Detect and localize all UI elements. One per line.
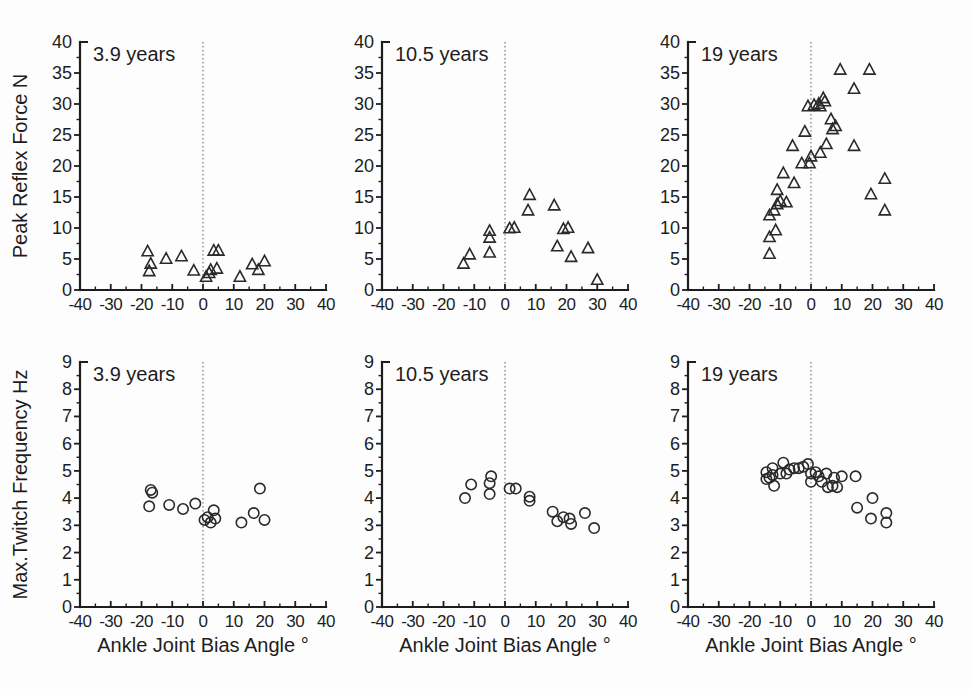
y-tick-label: 9	[670, 352, 680, 372]
y-tick-label: 35	[52, 63, 72, 83]
x-tick-label: 10	[527, 295, 545, 314]
x-tick-label: -40	[676, 612, 699, 631]
x-tick-label: 40	[317, 295, 335, 314]
data-point-circle	[486, 471, 496, 481]
data-point-triangle	[772, 184, 783, 194]
y-tick-label: 4	[62, 488, 72, 508]
y-tick-label: 7	[364, 406, 374, 426]
x-tick-label: 20	[558, 612, 576, 631]
data-point-circle	[484, 478, 494, 488]
scatter-figure: 0510152025303540-40-30-20-100102030403.9…	[0, 0, 971, 689]
data-point-circle	[255, 483, 265, 493]
data-point-triangle	[879, 204, 890, 214]
x-tick-label: 40	[925, 295, 943, 314]
y-tick-label: 15	[660, 187, 680, 207]
y-tick-label: 3	[62, 515, 72, 535]
data-point-triangle	[848, 83, 859, 93]
data-point-triangle	[484, 247, 495, 257]
subplot-peak-reflex-10-5-years: 0510152025303540-40-30-20-1001020304010.…	[354, 32, 637, 314]
data-point-triangle	[259, 255, 270, 265]
y-tick-label: 10	[660, 218, 680, 238]
y-tick-label: 20	[52, 156, 72, 176]
subplot-max-twitch-19-years: 0123456789-40-30-20-1001020304019 yearsA…	[670, 352, 943, 656]
x-tick-label: 30	[286, 612, 304, 631]
data-point-circle	[589, 523, 599, 533]
y-tick-label: 10	[52, 218, 72, 238]
y-tick-label: 30	[354, 94, 374, 114]
x-tick-label: 10	[527, 612, 545, 631]
data-point-triangle	[804, 157, 815, 167]
data-point-triangle	[161, 253, 172, 263]
y-tick-label: 6	[364, 434, 374, 454]
y-tick-label: 40	[354, 32, 374, 52]
data-point-circle	[769, 481, 779, 491]
panel-age-title: 19 years	[701, 363, 778, 385]
y-tick-label: 1	[364, 570, 374, 590]
data-point-triangle	[464, 248, 475, 258]
y-tick-label: 5	[62, 249, 72, 269]
y-tick-label: 20	[660, 156, 680, 176]
data-point-triangle	[764, 231, 775, 241]
x-tick-label: -30	[99, 612, 122, 631]
y-tick-label: 4	[670, 488, 680, 508]
y-tick-label: 25	[660, 125, 680, 145]
x-tick-label: -30	[707, 295, 730, 314]
y-tick-label: 2	[364, 543, 374, 563]
y-tick-label: 3	[670, 515, 680, 535]
x-tick-label: -40	[68, 295, 91, 314]
y-tick-label: 1	[62, 570, 72, 590]
y-tick-label: 2	[62, 543, 72, 563]
data-point-circle	[778, 458, 788, 468]
y-tick-label: 35	[354, 63, 374, 83]
data-point-triangle	[865, 188, 876, 198]
x-tick-label: -10	[463, 295, 486, 314]
y-tick-label: 20	[354, 156, 374, 176]
x-tick-label: 30	[588, 295, 606, 314]
y-tick-label: 25	[354, 125, 374, 145]
data-point-circle	[199, 515, 209, 525]
x-tick-label: -20	[432, 295, 455, 314]
y-tick-label: 9	[364, 352, 374, 372]
data-point-circle	[164, 500, 174, 510]
x-tick-label: 30	[588, 612, 606, 631]
y-tick-label: 15	[354, 187, 374, 207]
data-point-circle	[866, 513, 876, 523]
x-tick-label: -20	[432, 612, 455, 631]
x-tick-label: -40	[68, 612, 91, 631]
y-tick-label: 40	[660, 32, 680, 52]
y-tick-label: 15	[52, 187, 72, 207]
y-tick-label: 3	[364, 515, 374, 535]
figure-page: 0510152025303540-40-30-20-100102030403.9…	[0, 0, 971, 689]
y-tick-label: 5	[364, 249, 374, 269]
x-axis-label: Ankle Joint Bias Angle °	[705, 634, 916, 656]
y-tick-label: 40	[52, 32, 72, 52]
panel-age-title: 10.5 years	[395, 363, 488, 385]
data-point-triangle	[770, 224, 781, 234]
x-tick-label: -40	[370, 612, 393, 631]
x-tick-label: -30	[401, 295, 424, 314]
data-point-circle	[144, 501, 154, 511]
x-tick-label: -40	[370, 295, 393, 314]
data-point-triangle	[787, 140, 798, 150]
y-tick-label: 4	[364, 488, 374, 508]
x-tick-label: 20	[864, 295, 882, 314]
y-tick-label: 5	[62, 461, 72, 481]
x-tick-label: -30	[707, 612, 730, 631]
x-tick-label: 30	[286, 295, 304, 314]
y-tick-label: 25	[52, 125, 72, 145]
x-tick-label: 10	[833, 612, 851, 631]
y-tick-label: 8	[670, 379, 680, 399]
x-tick-label: -30	[401, 612, 424, 631]
x-tick-label: -10	[463, 612, 486, 631]
data-point-triangle	[188, 265, 199, 275]
subplot-peak-reflex-3-9-years: 0510152025303540-40-30-20-100102030403.9…	[9, 32, 335, 314]
x-tick-label: -20	[738, 295, 761, 314]
x-tick-label: 40	[925, 612, 943, 631]
y-tick-label: 30	[52, 94, 72, 114]
data-point-circle	[178, 504, 188, 514]
data-point-triangle	[788, 177, 799, 187]
data-point-circle	[850, 471, 860, 481]
data-point-circle	[867, 493, 877, 503]
data-point-triangle	[566, 251, 577, 261]
x-tick-label: 0	[199, 612, 208, 631]
